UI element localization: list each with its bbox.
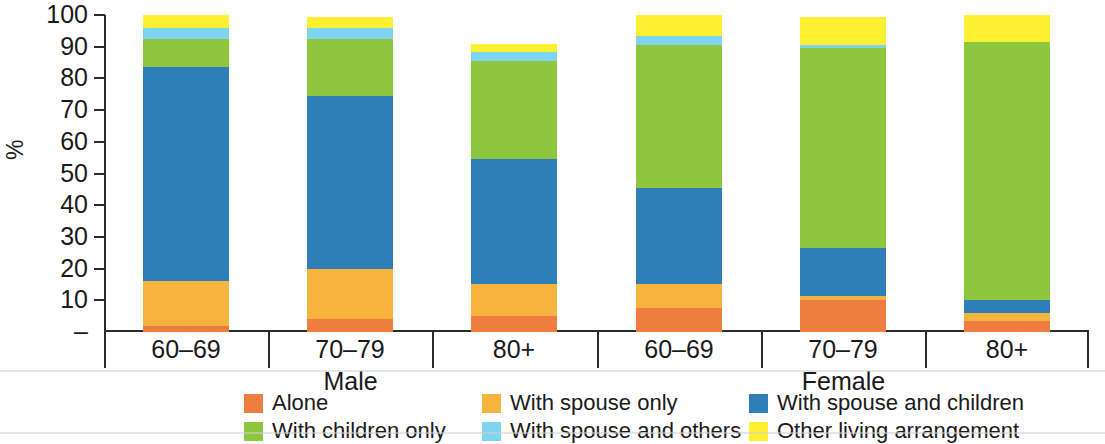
y-tick-label: 30 [24, 224, 88, 249]
bar-segment [636, 308, 722, 332]
scan-artifact [0, 432, 1105, 434]
bar-2 [471, 15, 557, 332]
bar-segment [471, 159, 557, 284]
legend-swatch-icon [244, 422, 263, 441]
bar-segment [307, 39, 393, 96]
bar-segment [800, 17, 886, 46]
category-separator [268, 332, 270, 368]
y-tick-label: – [24, 319, 88, 344]
bar-segment [471, 52, 557, 62]
category-separator [925, 332, 927, 368]
category-label-2: 80+ [441, 335, 587, 364]
plot-area [104, 15, 1089, 332]
legend-item: Alone [244, 392, 328, 414]
category-label-4: 70–79 [770, 335, 916, 364]
legend-item: With spouse only [482, 392, 678, 414]
y-tick-label: 50 [24, 161, 88, 186]
category-label-1: 70–79 [277, 335, 423, 364]
legend-label: Other living arrangement [777, 420, 1019, 442]
category-separator [761, 332, 763, 368]
category-label-3: 60–69 [606, 335, 752, 364]
bar-segment [964, 42, 1050, 300]
bar-segment [964, 321, 1050, 332]
category-separator [432, 332, 434, 368]
bar-segment [471, 316, 557, 332]
bar-segment [964, 300, 1050, 313]
bar-4 [800, 15, 886, 332]
y-tick-label: 80 [24, 65, 88, 90]
bar-segment [307, 319, 393, 332]
bar-segment [143, 281, 229, 325]
legend-swatch-icon [244, 394, 263, 413]
scan-artifact [0, 370, 1105, 372]
legend-label: With spouse and others [510, 420, 741, 442]
category-axis: 60–6970–7980+60–6970–7980+MaleFemale [104, 332, 1089, 392]
bar-segment [636, 284, 722, 308]
category-separator [1087, 332, 1089, 368]
legend-swatch-icon [482, 394, 501, 413]
legend-label: Alone [272, 392, 328, 414]
legend-swatch-icon [749, 394, 768, 413]
category-separator [104, 332, 106, 368]
bar-5 [964, 15, 1050, 332]
legend-item: With spouse and others [482, 420, 741, 442]
legend-item: With children only [244, 420, 446, 442]
bar-segment [636, 15, 722, 36]
y-tick-label: 40 [24, 192, 88, 217]
y-axis-tick-labels: 100908070605040302010– [24, 0, 88, 444]
bar-segment [964, 313, 1050, 321]
bar-segment [143, 39, 229, 68]
legend-item: With spouse and children [749, 392, 1024, 414]
bar-1 [307, 15, 393, 332]
legend-label: With children only [272, 420, 446, 442]
bar-segment [307, 269, 393, 320]
chart-legend: AloneWith spouse onlyWith spouse and chi… [244, 392, 1074, 444]
bar-segment [800, 248, 886, 296]
bar-segment [307, 28, 393, 39]
bar-segment [471, 61, 557, 159]
stacked-bar-chart-figure: % 100908070605040302010– 60–6970–7980+60… [0, 0, 1105, 444]
bar-0 [143, 15, 229, 332]
category-label-5: 80+ [934, 335, 1080, 364]
legend-label: With spouse and children [777, 392, 1024, 414]
y-tick-label: 60 [24, 129, 88, 154]
y-tick-label: 70 [24, 97, 88, 122]
legend-label: With spouse only [510, 392, 678, 414]
bar-3 [636, 15, 722, 332]
y-tick-label: 90 [24, 34, 88, 59]
y-tick-label: 20 [24, 256, 88, 281]
bar-segment [964, 15, 1050, 42]
legend-item: Other living arrangement [749, 420, 1019, 442]
bar-segment [307, 96, 393, 269]
bar-segment [636, 188, 722, 285]
y-tick-label: 10 [24, 287, 88, 312]
bar-segment [143, 28, 229, 39]
legend-swatch-icon [749, 422, 768, 441]
legend-swatch-icon [482, 422, 501, 441]
bar-segment [143, 67, 229, 281]
bar-segment [800, 48, 886, 248]
bar-segment [636, 45, 722, 188]
bar-segment [471, 284, 557, 316]
y-tick-label: 100 [24, 2, 88, 27]
bar-segment [800, 300, 886, 332]
bar-segment [636, 36, 722, 46]
bar-segment [471, 44, 557, 52]
category-separator [597, 332, 599, 368]
category-label-0: 60–69 [113, 335, 259, 364]
bar-segment [143, 15, 229, 28]
bar-segment [307, 17, 393, 28]
